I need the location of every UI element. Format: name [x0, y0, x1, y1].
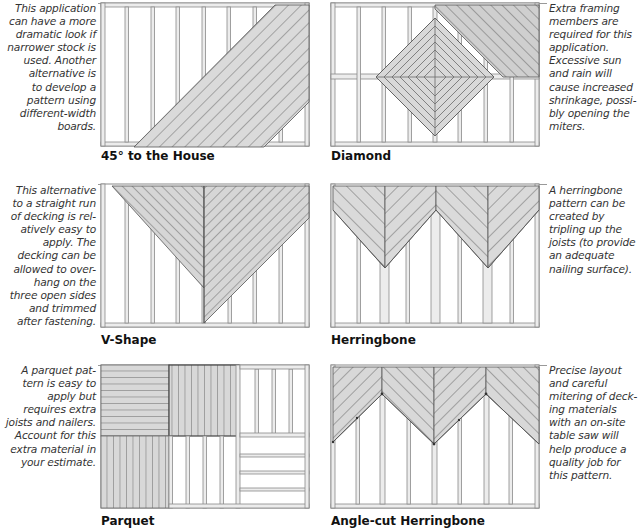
illustration-herringbone — [330, 183, 542, 331]
illustration-parquet — [100, 364, 312, 512]
illustration-45-to-the-house — [100, 2, 312, 148]
illustration-angle-cut-herringbone — [330, 364, 542, 512]
caption-parquet: Parquet — [101, 514, 155, 528]
note-angle-cut-herringbone: Precise layout and careful mitering of d… — [549, 364, 642, 482]
note-parquet: A parquet pat- tern is easy to apply but… — [0, 364, 96, 469]
caption-v-shape: V-Shape — [101, 333, 156, 347]
caption-herringbone: Herringbone — [331, 333, 416, 347]
illustration-v-shape — [100, 183, 312, 331]
note-45-to-the-house: This application can have a more dramati… — [0, 2, 96, 133]
note-herringbone: A herringbone pattern can be created by … — [549, 184, 642, 276]
caption-angle-cut-herringbone: Angle-cut Herringbone — [331, 514, 485, 528]
note-diamond: Extra framing members are required for t… — [549, 2, 642, 133]
caption-45-to-the-house: 45° to the House — [101, 149, 215, 163]
note-v-shape: This alternative to a straight run of de… — [0, 184, 96, 328]
caption-diamond: Diamond — [331, 149, 391, 163]
illustration-diamond — [330, 2, 542, 148]
